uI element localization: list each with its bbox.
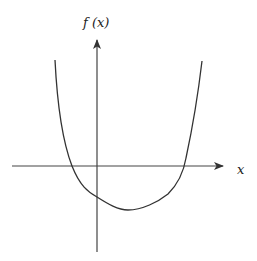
function-curve — [55, 60, 202, 210]
x-axis-label: x — [237, 162, 245, 177]
y-axis-label: f (x) — [82, 15, 109, 30]
function-graph: f (x) x — [0, 0, 257, 261]
